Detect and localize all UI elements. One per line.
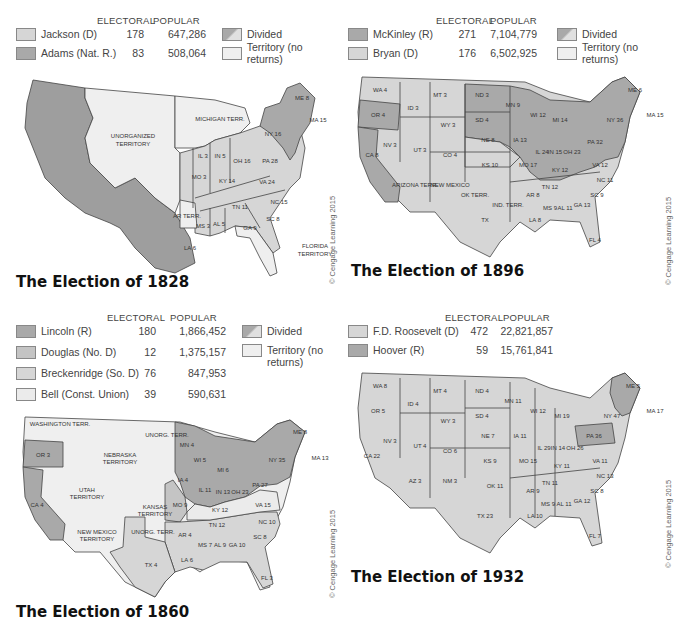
popular-votes: 6,502,925 [483,47,537,59]
svg-text:UNORG. TERR.: UNORG. TERR. [145,432,189,438]
legend-header-electoral: ELECTORAL [436,15,494,26]
electoral-votes: 76 [128,367,156,379]
legend-row-lincoln: Lincoln (R) 180 1,866,452 [16,323,216,339]
map-1932: WA 8 OR 5 CA 22 ID 4 NV 3 MT 4 WY 3 UT 4… [350,368,670,558]
swatch-divided [242,325,262,338]
key-label: Divided [247,28,282,40]
svg-text:NV 3: NV 3 [383,438,397,444]
svg-text:ND 3: ND 3 [475,92,489,98]
copyright-credit: © Cengage Learning 2015 [328,196,337,284]
svg-text:IN 15: IN 15 [548,149,563,155]
svg-text:KY 11: KY 11 [554,463,570,469]
svg-text:AR 9: AR 9 [526,488,540,494]
svg-text:TN 11: TN 11 [542,480,559,486]
copyright-credit: © Cengage Learning 2015 [328,510,337,598]
svg-text:LA 6: LA 6 [181,557,194,563]
candidate-name: Hoover (R) [373,344,424,356]
svg-text:TERRITORY: TERRITORY [103,459,137,465]
legend-header-electoral: ELECTORAL [107,312,165,323]
electoral-votes: 472 [460,325,488,337]
map-title: The Election of 1860 [16,603,189,621]
popular-votes: 1,866,452 [166,325,226,337]
svg-text:IA 4: IA 4 [178,477,189,483]
svg-text:FL 7: FL 7 [589,533,601,539]
legend-header-popular: POPULAR [490,15,537,26]
svg-text:AL 9: AL 9 [214,542,227,548]
legend-key-divided: Divided [222,26,282,42]
svg-text:MT 4: MT 4 [433,388,447,394]
svg-text:WY 3: WY 3 [441,418,456,424]
svg-text:MI 19: MI 19 [554,413,570,419]
svg-text:OH 16: OH 16 [233,158,251,164]
svg-text:ID 4: ID 4 [407,401,419,407]
svg-text:NE 7: NE 7 [481,433,495,439]
legend-header-popular: POPULAR [170,312,217,323]
svg-text:SC 8: SC 8 [590,488,604,494]
swatch-territory [222,47,242,60]
swatch-jackson [16,28,36,41]
svg-text:UTAH: UTAH [79,487,95,493]
svg-text:ME 6: ME 6 [628,87,643,93]
svg-text:TERRITORY: TERRITORY [116,141,150,147]
svg-text:TX: TX [481,217,489,223]
svg-text:UNORGANIZED: UNORGANIZED [111,133,156,139]
legend-header-popular: POPULAR [153,15,200,26]
svg-text:LA 8: LA 8 [529,217,542,223]
swatch-adams [16,47,36,60]
svg-text:MA 17: MA 17 [646,408,664,414]
legend-key-divided: Divided [242,323,302,339]
svg-text:AL 5: AL 5 [213,221,226,227]
svg-text:MN 9: MN 9 [506,102,521,108]
map-1896: WA 4 OR 4 CA 8 ID 3 NV 3 MT 3 WY 3 UT 3 … [350,72,670,262]
svg-text:IN 13: IN 13 [216,489,231,495]
electoral-votes: 59 [460,344,488,356]
svg-text:NY 47: NY 47 [604,413,621,419]
svg-text:NY 16: NY 16 [265,131,282,137]
svg-text:NM 3: NM 3 [443,478,458,484]
svg-text:MI 6: MI 6 [217,467,229,473]
svg-text:OH 26: OH 26 [566,445,584,451]
svg-text:LA 10: LA 10 [527,513,543,519]
legend-header-electoral: ELECTORAL [445,312,503,323]
svg-text:WI 12: WI 12 [530,408,546,414]
svg-text:TERRITORY: TERRITORY [80,536,114,542]
svg-text:IL 3: IL 3 [198,153,208,159]
svg-text:SD 4: SD 4 [475,117,489,123]
svg-text:TX 4: TX 4 [145,562,158,568]
svg-text:MA 15: MA 15 [646,112,664,118]
svg-text:VA 24: VA 24 [259,179,275,185]
candidate-name: Adams (Nat. R.) [41,47,116,59]
svg-text:WI 12: WI 12 [530,112,546,118]
electoral-votes: 12 [128,346,156,358]
svg-text:NEBRASKA: NEBRASKA [104,452,137,458]
key-label: Divided [267,325,302,337]
electoral-votes: 83 [116,47,144,59]
popular-votes: 647,286 [156,28,206,40]
swatch-roosevelt [348,325,368,338]
svg-text:ME 8: ME 8 [293,429,308,435]
map-1860: WASHINGTON TERR. OR 3 CA 4 NEBRASKA TERR… [15,412,335,602]
svg-text:TERRITORY: TERRITORY [138,511,172,517]
svg-text:NE 8: NE 8 [481,137,495,143]
svg-text:OK TERR.: OK TERR. [461,192,490,198]
popular-votes: 15,761,841 [493,344,553,356]
svg-text:KS 10: KS 10 [482,162,499,168]
svg-text:WY 3: WY 3 [441,122,456,128]
svg-text:NC 10: NC 10 [258,519,276,525]
svg-text:FLORIDA: FLORIDA [302,243,328,249]
svg-text:MS 7: MS 7 [198,542,213,548]
popular-votes: 508,064 [156,47,206,59]
swatch-territory [557,47,577,60]
candidate-name: Jackson (D) [41,28,97,40]
swatch-douglas [16,346,36,359]
svg-text:AL 11: AL 11 [557,205,573,211]
svg-text:WI 5: WI 5 [194,457,207,463]
svg-text:MN 11: MN 11 [504,398,522,404]
svg-text:MO 17: MO 17 [519,162,538,168]
svg-text:IN 14: IN 14 [551,445,566,451]
svg-text:MI 14: MI 14 [552,117,568,123]
svg-text:IND. TERR.: IND. TERR. [492,202,524,208]
svg-text:NV 3: NV 3 [383,142,397,148]
popular-votes: 1,375,157 [166,346,226,358]
svg-text:VA 15: VA 15 [255,502,271,508]
